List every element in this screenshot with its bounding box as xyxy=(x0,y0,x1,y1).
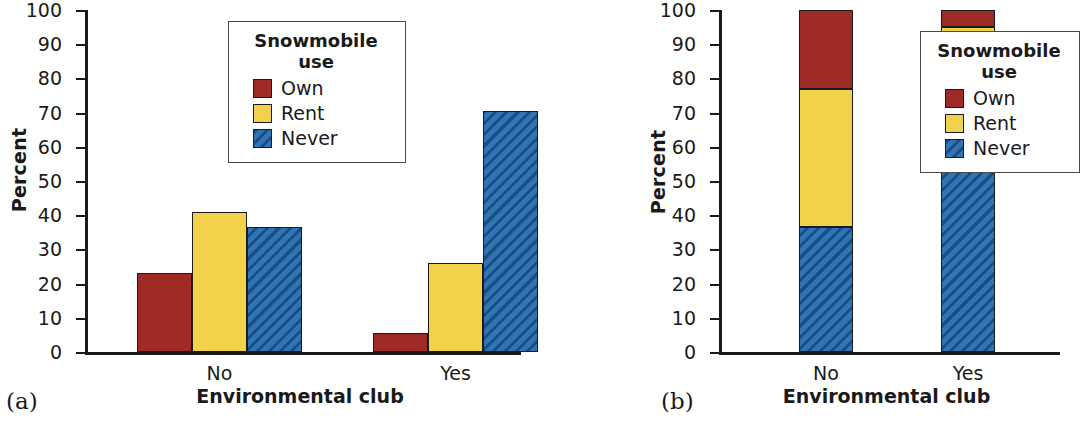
x-tick-label-no: No xyxy=(207,362,233,384)
y-tick-label-20: 20 xyxy=(650,273,696,295)
y-tick-70: 70 xyxy=(76,113,85,115)
y-tick-label-30: 30 xyxy=(16,238,62,260)
y-tick-10: 10 xyxy=(76,318,85,320)
legend-label-own: Own xyxy=(281,77,324,99)
y-axis-line-a xyxy=(85,10,88,355)
x-axis-line-b xyxy=(719,352,1060,355)
legend-title-line2: use xyxy=(981,61,1017,82)
y-tick-60: 60 xyxy=(76,147,85,149)
y-tick-label-0: 0 xyxy=(16,341,62,363)
legend-entry-own: Own xyxy=(253,77,391,99)
y-tick-label-10: 10 xyxy=(16,307,62,329)
y-tick-label-40: 40 xyxy=(650,204,696,226)
panel-label-b: (b) xyxy=(661,388,694,414)
legend-entry-own: Own xyxy=(945,87,1065,109)
legend-swatch-never-icon xyxy=(945,139,964,158)
y-tick-label-30: 30 xyxy=(650,238,696,260)
panel-label-a: (a) xyxy=(6,388,38,414)
segment-no-never xyxy=(799,227,853,352)
y-tick-40: 40 xyxy=(76,215,85,217)
y-tick-label-90: 90 xyxy=(650,33,696,55)
y-tick-90: 90 xyxy=(76,44,85,46)
y-tick-0: 0 xyxy=(710,352,719,354)
segment-no-own xyxy=(799,10,853,89)
y-tick-20: 20 xyxy=(710,284,719,286)
legend-swatch-own-icon xyxy=(945,89,964,108)
y-tick-30: 30 xyxy=(710,249,719,251)
y-tick-label-70: 70 xyxy=(650,102,696,124)
legend-title-a: Snowmobile use xyxy=(241,30,391,72)
y-tick-50: 50 xyxy=(76,181,85,183)
bar-yes-rent xyxy=(428,263,483,352)
legend-entry-rent: Rent xyxy=(945,112,1065,134)
legend-entry-never: Never xyxy=(253,127,391,149)
x-axis-title-a: Environmental club xyxy=(85,385,515,407)
x-tick-label-yes: Yes xyxy=(440,362,471,384)
legend-entry-never: Never xyxy=(945,137,1065,159)
y-tick-60: 60 xyxy=(710,147,719,149)
legend-swatch-never-icon xyxy=(253,129,272,148)
legend-title-b: Snowmobile use xyxy=(933,40,1065,82)
y-tick-100: 100 xyxy=(76,10,85,12)
legend-a: Snowmobile use OwnRentNever xyxy=(228,21,406,163)
y-tick-label-50: 50 xyxy=(16,170,62,192)
y-tick-100: 100 xyxy=(710,10,719,12)
y-tick-label-100: 100 xyxy=(16,0,62,21)
x-axis-title-b: Environmental club xyxy=(719,385,1054,407)
y-tick-0: 0 xyxy=(76,352,85,354)
legend-title-line2: use xyxy=(298,51,334,72)
y-tick-label-50: 50 xyxy=(650,170,696,192)
legend-label-rent: Rent xyxy=(973,112,1017,134)
y-tick-label-40: 40 xyxy=(16,204,62,226)
y-tick-label-90: 90 xyxy=(16,33,62,55)
y-tick-70: 70 xyxy=(710,113,719,115)
y-tick-label-80: 80 xyxy=(650,67,696,89)
y-tick-label-100: 100 xyxy=(650,0,696,21)
y-axis-line-b xyxy=(719,10,722,355)
legend-entry-rent: Rent xyxy=(253,102,391,124)
segment-yes-own xyxy=(941,10,995,27)
legend-label-own: Own xyxy=(973,87,1016,109)
y-tick-label-80: 80 xyxy=(16,67,62,89)
legend-label-rent: Rent xyxy=(281,102,325,124)
x-tick-label-yes: Yes xyxy=(953,362,984,384)
legend-swatch-own-icon xyxy=(253,79,272,98)
y-tick-label-60: 60 xyxy=(16,136,62,158)
y-tick-label-0: 0 xyxy=(650,341,696,363)
segment-no-rent xyxy=(799,89,853,227)
y-tick-90: 90 xyxy=(710,44,719,46)
panel-a-grouped-bar-chart: Percent 1009080706050403020100NoYes Envi… xyxy=(0,0,539,422)
x-axis-line-a xyxy=(85,352,521,355)
legend-title-line1: Snowmobile xyxy=(254,30,377,51)
legend-label-never: Never xyxy=(973,137,1030,159)
panel-b-stacked-bar-chart: Percent 1009080706050403020100NoYes Envi… xyxy=(539,0,1078,422)
bar-no-never xyxy=(247,227,302,352)
bar-yes-own xyxy=(373,333,428,352)
legend-title-line1: Snowmobile xyxy=(937,40,1060,61)
bar-no-own xyxy=(137,273,192,352)
y-tick-80: 80 xyxy=(710,78,719,80)
y-tick-label-10: 10 xyxy=(650,307,696,329)
x-tick-label-no: No xyxy=(813,362,839,384)
y-tick-label-60: 60 xyxy=(650,136,696,158)
y-tick-40: 40 xyxy=(710,215,719,217)
y-tick-10: 10 xyxy=(710,318,719,320)
legend-label-never: Never xyxy=(281,127,338,149)
y-tick-label-70: 70 xyxy=(16,102,62,124)
y-tick-label-20: 20 xyxy=(16,273,62,295)
y-tick-20: 20 xyxy=(76,284,85,286)
y-tick-50: 50 xyxy=(710,181,719,183)
legend-b: Snowmobile use OwnRentNever xyxy=(920,31,1080,173)
bar-no-rent xyxy=(192,212,247,352)
y-tick-80: 80 xyxy=(76,78,85,80)
legend-swatch-rent-icon xyxy=(253,104,272,123)
legend-swatch-rent-icon xyxy=(945,114,964,133)
bar-yes-never xyxy=(483,111,538,352)
y-tick-30: 30 xyxy=(76,249,85,251)
